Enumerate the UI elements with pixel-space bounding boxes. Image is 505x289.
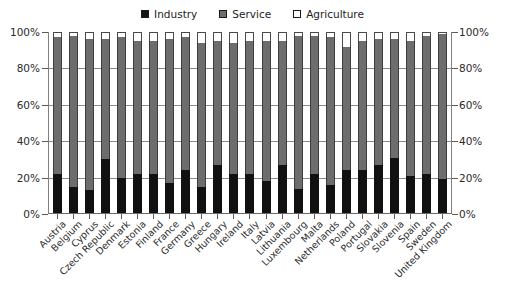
bar-segment-agriculture [213,32,222,41]
bar-segment-agriculture [358,32,367,41]
bar-segment-industry [245,174,254,214]
bar-column [435,32,451,214]
y-axis-tick [452,178,458,179]
bar-segment-industry [390,158,399,214]
stacked-bar-chart: Industry Service Agriculture 100%80%60%4… [0,0,505,289]
stacked-bar [262,32,271,214]
x-axis-labels: AustriaBelgiumCyprusCzech RepublicDenmar… [48,219,452,289]
bar-segment-service [69,36,78,187]
bar-segment-industry [326,185,335,214]
bar-column [194,32,210,214]
bar-segment-service [133,41,142,174]
bar-column [306,32,322,214]
bar-segment-industry [262,181,271,214]
bar-segment-agriculture [165,32,174,39]
stacked-bar [278,32,287,214]
bar-segment-service [181,37,190,170]
bar-segment-service [197,43,206,187]
stacked-bar [213,32,222,214]
bar-segment-service [406,41,415,176]
stacked-bar [374,32,383,214]
bar-segment-service [342,47,351,171]
bar-segment-service [229,43,238,174]
bar-segment-service [358,41,367,170]
bar-column [65,32,81,214]
stacked-bar [149,32,158,214]
bar-segment-industry [149,174,158,214]
bar-segment-industry [213,165,222,214]
bar-segment-service [245,41,254,174]
y-axis-left-tick-label: 100% [10,27,40,37]
bar-segment-service [310,36,319,174]
stacked-bar [85,32,94,214]
y-axis-right-labels: 100%80%60%40%20%0% [459,32,499,214]
bar-segment-industry [438,179,447,214]
bar-segment-service [117,37,126,177]
stacked-bar [422,32,431,214]
bar-segment-service [374,39,383,165]
bar-segment-service [213,41,222,165]
stacked-bar [310,32,319,214]
bar-segment-industry [229,174,238,214]
y-axis-tick [452,32,458,33]
bar-column [242,32,258,214]
bar-column [49,32,65,214]
bar-segment-industry [85,190,94,214]
bar-column [290,32,306,214]
stacked-bar [53,32,62,214]
bar-column [210,32,226,214]
bar-segment-service [165,39,174,183]
stacked-bar [229,32,238,214]
bar-segment-agriculture [342,32,351,47]
bar-column [258,32,274,214]
bar-column [145,32,161,214]
stacked-bar [133,32,142,214]
y-axis-left-tick-label: 20% [17,173,40,183]
bar-column [162,32,178,214]
y-axis-tick [452,68,458,69]
bar-segment-service [53,37,62,174]
y-axis-tick [452,105,458,106]
legend-label-service: Service [232,9,271,19]
legend-label-industry: Industry [154,9,197,19]
bar-segment-service [438,34,447,180]
stacked-bar [117,32,126,214]
y-axis-right-tick-label: 60% [459,100,482,110]
bar-column [97,32,113,214]
bar-segment-industry [101,159,110,214]
legend-item-service: Service [219,9,271,19]
bar-segment-industry [165,183,174,214]
y-axis-tick [452,214,458,215]
y-axis-right-tick-label: 40% [459,136,482,146]
stacked-bar [101,32,110,214]
bar-segment-industry [294,189,303,214]
bar-column [274,32,290,214]
bar-segment-agriculture [374,32,383,39]
bar-column [322,32,338,214]
bar-segment-service [101,39,110,159]
stacked-bar [197,32,206,214]
bar-column [129,32,145,214]
bar-segment-service [294,36,303,189]
plot-area [48,32,452,214]
y-axis-left-tick-label: 40% [17,136,40,146]
bar-segment-industry [117,178,126,214]
bar-segment-industry [406,176,415,214]
y-axis-right-tick-label: 100% [459,27,489,37]
y-axis-tick [452,141,458,142]
stacked-bar [181,32,190,214]
bar-segment-industry [342,170,351,214]
stacked-bar [358,32,367,214]
bar-column [226,32,242,214]
bar-column [387,32,403,214]
legend-label-agriculture: Agriculture [306,9,364,19]
bar-segment-industry [133,174,142,214]
bar-segment-industry [197,187,206,214]
bar-segment-agriculture [229,32,238,43]
bar-segment-service [262,41,271,181]
bar-segment-agriculture [390,32,399,39]
bar-segment-industry [310,174,319,214]
stacked-bar [165,32,174,214]
y-axis-left-labels: 100%80%60%40%20%0% [0,32,40,214]
y-axis-left-tick-label: 80% [17,63,40,73]
